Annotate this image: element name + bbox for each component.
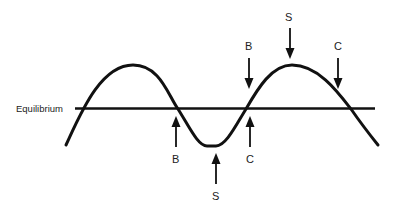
svg-text:S: S bbox=[285, 11, 292, 23]
arrow-down-icon bbox=[245, 78, 254, 89]
equilibrium-label: Equilibrium bbox=[16, 103, 63, 114]
svg-text:B: B bbox=[245, 40, 252, 52]
wave-diagram: Equilibrium S B C B S C bbox=[0, 0, 393, 210]
svg-text:S: S bbox=[212, 190, 219, 202]
marker-s-top: S bbox=[285, 11, 295, 59]
marker-b-top: B bbox=[245, 40, 254, 89]
wave-curve bbox=[66, 65, 378, 146]
svg-text:C: C bbox=[246, 153, 254, 165]
svg-text:B: B bbox=[172, 153, 179, 165]
marker-c-top: C bbox=[334, 40, 343, 89]
marker-s-bottom: S bbox=[212, 153, 221, 202]
marker-b-bottom: B bbox=[172, 116, 181, 165]
arrow-down-icon bbox=[286, 48, 295, 59]
marker-c-bottom: C bbox=[246, 116, 255, 165]
svg-text:C: C bbox=[334, 40, 342, 52]
